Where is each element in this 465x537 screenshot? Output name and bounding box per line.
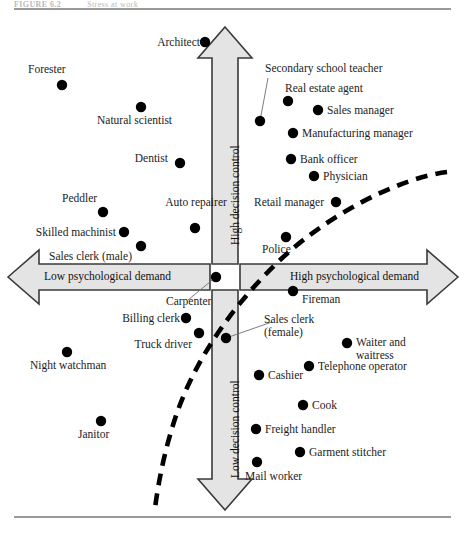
point-label-architect: Architect: [118, 36, 200, 49]
point-label-dentist: Dentist: [88, 152, 168, 165]
data-point-sales-manager: [313, 105, 323, 115]
data-point-waiter-and-waitress: [342, 338, 352, 348]
data-point-cashier: [254, 370, 264, 380]
data-point-natural-scientist: [136, 102, 146, 112]
point-label-waiter-and-waitress: Waiter and waitress: [356, 336, 422, 361]
data-point-freight-handler: [251, 424, 261, 434]
data-point-fireman: [288, 286, 298, 296]
data-point-physician: [309, 171, 319, 181]
data-point-dentist: [175, 158, 185, 168]
point-label-police: Police: [262, 243, 291, 256]
point-label-janitor: Janitor: [78, 428, 109, 441]
point-label-fireman: Fireman: [302, 293, 340, 306]
data-point-peddler: [98, 207, 108, 217]
figure-root: FIGURE 6.2Stress at work: [0, 0, 465, 537]
axis-label-low-decision-control: Low decision control: [229, 380, 241, 478]
data-point-manufacturing-manager: [288, 128, 298, 138]
point-label-real-estate-agent: Real estate agent: [285, 82, 363, 95]
point-label-forester: Forester: [28, 63, 66, 76]
point-label-sales-manager: Sales manager: [327, 104, 394, 117]
point-label-natural-scientist: Natural scientist: [97, 114, 172, 127]
point-label-telephone-operator: Telephone operator: [318, 360, 407, 373]
data-point-truck-driver: [194, 328, 204, 338]
data-point-retail-manager: [331, 197, 341, 207]
data-point-secondary-school-teacher: [255, 116, 265, 126]
axis-label-high-psychological-demand: High psychological demand: [290, 270, 419, 282]
data-point-janitor: [96, 416, 106, 426]
axis-arrow-up: [198, 27, 252, 264]
leader-line-secondary-school-teacher: [260, 78, 268, 121]
point-label-bank-officer: Bank officer: [300, 153, 358, 166]
point-label-mail-worker: Mail worker: [245, 470, 302, 483]
data-point-mail-worker: [252, 457, 262, 467]
point-label-cashier: Cashier: [268, 369, 303, 382]
point-label-sales-clerk-male: Sales clerk (male): [40, 250, 132, 263]
point-label-sales-clerk-female: Sales clerk (female): [264, 313, 330, 338]
skilled-machinist-text: Skilled machinist: [36, 226, 116, 238]
data-point-telephone-operator: [304, 361, 314, 371]
data-point-auto-repairer: [190, 223, 200, 233]
data-point-billing-clerk: [181, 313, 191, 323]
point-label-truck-driver: Truck driver: [110, 338, 192, 351]
point-label-billing-clerk: Billing clerk: [96, 312, 180, 325]
data-point-garment-stitcher: [295, 447, 305, 457]
data-point-police: [281, 232, 291, 242]
point-label-auto-repairer: Auto repairer: [162, 196, 230, 209]
data-point-sales-clerk-male: [136, 241, 146, 251]
data-point-skilled-machinist: [119, 227, 129, 237]
point-label-garment-stitcher: Garment stitcher: [309, 446, 386, 459]
point-label-skilled-machinist: Skilled machinist: [22, 226, 116, 239]
point-label-secondary-school-teacher: Secondary school teacher: [265, 62, 383, 75]
data-point-architect: [200, 37, 210, 47]
data-point-bank-officer: [286, 154, 296, 164]
point-label-peddler: Peddler: [62, 192, 97, 205]
data-point-cook: [298, 400, 308, 410]
data-point-carpenter: [211, 272, 221, 282]
point-label-freight-handler: Freight handler: [265, 423, 336, 436]
axis-arrow-down: [198, 290, 252, 510]
data-point-sales-clerk-female: [221, 333, 231, 343]
data-point-night-watchman: [62, 347, 72, 357]
point-label-night-watchman: Night watchman: [30, 359, 106, 372]
data-point-forester: [57, 80, 67, 90]
point-label-physician: Physician: [323, 170, 368, 183]
point-label-retail-manager: Retail manager: [232, 196, 324, 209]
point-label-manufacturing-manager: Manufacturing manager: [302, 127, 413, 140]
axis-label-low-psychological-demand: Low psychological demand: [44, 270, 171, 282]
point-label-carpenter: Carpenter: [166, 295, 211, 308]
data-point-real-estate-agent: [283, 96, 293, 106]
point-label-cook: Cook: [312, 399, 337, 412]
